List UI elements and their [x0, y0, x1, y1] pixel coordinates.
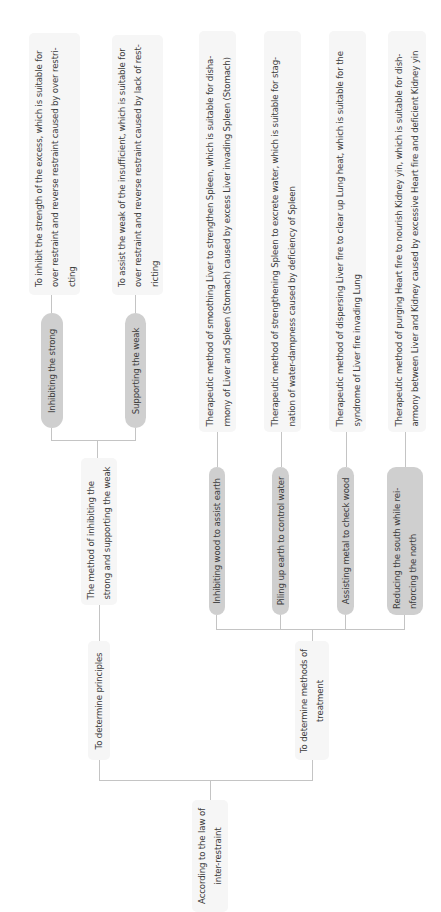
connector-metal-desc [346, 432, 347, 467]
desc-reducing-south-line-2: armony between Liver and Kidney caused b… [407, 50, 424, 426]
connector-methods-bracket [216, 629, 405, 630]
desc-inhibiting-strong[interactable]: To inhibit the strength of the excess, w… [29, 33, 80, 295]
connector-wood-stem [216, 615, 217, 629]
node-inhibiting-wood[interactable]: Inhibiting wood to assist earth [209, 467, 225, 615]
node-inhibiting-strong[interactable]: Inhibiting the strong [41, 313, 63, 428]
desc-reducing-south[interactable]: Therapeutic method of purging Heart fire… [388, 31, 426, 432]
connector-weak-desc [135, 295, 136, 313]
root-node-line-1: According to the law of [194, 808, 211, 904]
node-determine-principles[interactable]: To determine principles [88, 641, 110, 760]
node-determine-principles-label: To determine principles [91, 652, 108, 749]
desc-assisting-metal-line-2: syndrome of Liver fire invading Lung [348, 274, 365, 426]
node-piling-earth-label: Piling up earth to control water [272, 477, 289, 606]
root-node-line-2: inter-restraint [210, 828, 227, 885]
connector-methods-stem [312, 760, 313, 780]
connector-principles-stem [99, 760, 100, 780]
desc-reducing-south-line-1: Therapeutic method of purging Heart fire… [391, 53, 408, 426]
node-assisting-metal-label: Assisting metal to check wood [337, 478, 354, 604]
connector-south-desc [405, 432, 406, 467]
connector-earth-stem [280, 615, 281, 629]
node-supporting-weak[interactable]: Supporting the weak [125, 313, 146, 428]
node-determine-methods-line-2: treatment [312, 680, 329, 722]
desc-supporting-weak-line-2: over restraint and reverse restraint cau… [129, 44, 146, 287]
desc-piling-earth[interactable]: Therapeutic method of strengthening Sple… [264, 31, 301, 432]
node-inhibiting-strong-label: Inhibiting the strong [44, 328, 61, 412]
connector-strong-stem [51, 428, 52, 440]
node-inhibiting-wood-label: Inhibiting wood to assist earth [209, 478, 226, 604]
connector-root-stem [210, 780, 211, 802]
desc-assisting-metal[interactable]: Therapeutic method of dispersing Liver f… [329, 31, 366, 432]
connector-principles-to-method [99, 605, 100, 641]
connector-earth-desc [281, 432, 282, 467]
node-reducing-south-line-2: nforcing the north [405, 534, 422, 609]
desc-inhibiting-strong-line-1: To inhibit the strength of the excess, w… [30, 51, 47, 288]
connector-method-bracket [51, 440, 136, 441]
desc-inhibiting-strong-line-3: cting [63, 266, 80, 287]
desc-supporting-weak[interactable]: To assist the weak of the insufficient, … [112, 35, 163, 295]
desc-piling-earth-line-1: Therapeutic method of strengthening Sple… [266, 57, 283, 426]
node-method-line-2: strong and supporting the weak [99, 466, 116, 599]
desc-assisting-metal-line-1: Therapeutic method of dispersing Liver f… [331, 51, 348, 426]
desc-inhibiting-wood-line-1: Therapeutic method of smoothing Liver to… [201, 55, 218, 426]
desc-supporting-weak-line-1: To assist the weak of the insufficient, … [113, 48, 130, 287]
connector-weak-stem [135, 428, 136, 440]
desc-inhibiting-wood-line-2: rmony of Liver and Spleen (Stomach) caus… [218, 57, 235, 426]
desc-inhibiting-strong-line-2: over restraint and reverse restraint cau… [46, 48, 63, 287]
node-determine-methods-line-1: To determine methods of [296, 649, 313, 753]
desc-inhibiting-wood[interactable]: Therapeutic method of smoothing Liver to… [199, 31, 236, 432]
desc-supporting-weak-line-3: ricting [146, 261, 163, 287]
node-piling-earth[interactable]: Piling up earth to control water [272, 467, 289, 615]
node-reducing-south[interactable]: Reducing the south while rei- nforcing t… [387, 467, 423, 615]
connector-wood-desc [217, 432, 218, 467]
node-method-line-1: The method of inhibiting the [83, 481, 100, 599]
desc-piling-earth-line-2: nation of water-dampness caused by defic… [283, 186, 300, 426]
node-assisting-metal[interactable]: Assisting metal to check wood [337, 467, 354, 615]
connector-root-bracket [99, 780, 313, 781]
node-method-inhibit-support[interactable]: The method of inhibiting the strong and … [81, 458, 117, 605]
node-determine-methods[interactable]: To determine methods of treatment [295, 641, 329, 760]
connector-south-stem [404, 615, 405, 629]
node-reducing-south-line-1: Reducing the south while rei- [389, 488, 406, 609]
connector-method-stem [97, 440, 98, 458]
node-supporting-weak-label: Supporting the weak [127, 327, 144, 414]
connector-metal-stem [345, 615, 346, 629]
root-node[interactable]: According to the law of inter-restraint [192, 800, 228, 912]
connector-methods-up [312, 629, 313, 641]
connector-strong-desc [51, 295, 52, 313]
